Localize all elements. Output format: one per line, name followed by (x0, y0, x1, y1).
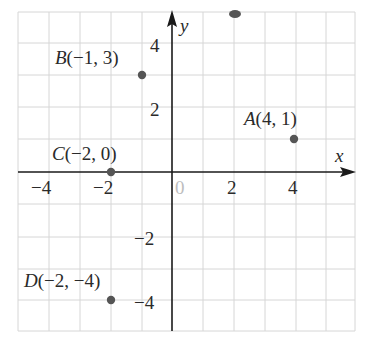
x-tick-neg4: −4 (31, 177, 52, 198)
point-a-label: A(4, 1) (242, 108, 297, 130)
point-a (290, 135, 298, 143)
x-tick-2: 2 (227, 177, 237, 198)
x-tick-origin: 0 (175, 177, 185, 198)
ink-smudge-top (229, 10, 241, 18)
point-b (138, 71, 146, 79)
point-c (107, 168, 115, 176)
point-c-label: C(−2, 0) (52, 143, 117, 165)
x-axis (18, 167, 356, 177)
x-tick-4: 4 (288, 177, 298, 198)
y-axis-label: y (178, 15, 189, 36)
point-b-label: B(−1, 3) (55, 47, 118, 69)
coordinate-plane: x y −4 −2 0 2 4 4 2 −2 −4 A(4, 1) B(−1, … (0, 0, 367, 341)
y-axis (167, 10, 177, 331)
y-tick-neg2: −2 (134, 228, 154, 249)
y-tick-4: 4 (150, 35, 160, 56)
point-d (107, 296, 115, 304)
x-tick-neg2: −2 (93, 177, 113, 198)
point-d-label: D(−2, −4) (23, 270, 100, 292)
y-tick-neg4: −4 (134, 292, 155, 313)
x-axis-label: x (334, 145, 344, 166)
y-tick-2: 2 (150, 99, 160, 120)
